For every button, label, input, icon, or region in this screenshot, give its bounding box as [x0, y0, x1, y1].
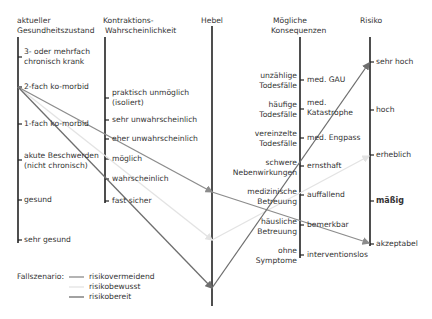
label-line: praktisch unmöglich — [112, 88, 189, 98]
label-risiko-0: sehr hoch — [376, 57, 413, 67]
header-risiko: Risiko — [360, 16, 382, 26]
label-gesundheit-3: akute Beschwerden (nicht chronisch) — [24, 151, 99, 170]
header-line: aktueller — [17, 16, 95, 26]
label-line: medizinische — [247, 187, 297, 197]
label-line: Todesfälle — [259, 110, 297, 120]
label-line: Nebenwirkungen — [233, 168, 297, 178]
label-line: Todesfälle — [259, 81, 297, 91]
legend-label-risikobereit: risikobereit — [89, 292, 131, 302]
label-kontraktion-4: wahrscheinlich — [112, 174, 169, 184]
label-line: Todesfälle — [255, 139, 297, 149]
header-konsequenzen: Mögliche Konsequenzen — [271, 16, 326, 35]
header-line: Mögliche — [271, 16, 326, 26]
label-line: schwere — [233, 158, 297, 168]
label-line: akute Beschwerden — [24, 151, 99, 161]
label-konsequenz-right-5: bemerkbar — [307, 220, 349, 230]
label-konsequenz-left-4: medizinische Betreuung — [247, 187, 297, 206]
label-line: häusliche — [257, 217, 297, 227]
header-hebel: Hebel — [201, 16, 223, 26]
header-kontraktion: Kontraktions- Wahrscheinlichkeit — [103, 16, 176, 35]
label-konsequenz-right-0: med. GAU — [307, 75, 345, 85]
label-konsequenz-right-3: ernsthaft — [307, 161, 341, 171]
label-line: Katastrophe — [307, 108, 353, 118]
label-kontraktion-3: möglich — [112, 154, 142, 164]
label-konsequenz-left-1: häufige Todesfälle — [259, 100, 297, 119]
label-line: 3- oder mehrfach — [24, 47, 90, 57]
header-gesundheit: aktueller Gesundheitszustand — [17, 16, 95, 35]
label-kontraktion-5: fast sicher — [112, 196, 152, 206]
label-line: Symptome — [256, 256, 297, 266]
label-line: (nicht chronisch) — [24, 161, 99, 171]
label-gesundheit-2: 1-fach ko-morbid — [24, 119, 89, 129]
label-kontraktion-0: praktisch unmöglich (isoliert) — [112, 88, 189, 107]
label-kontraktion-2: eher unwahrscheinlich — [112, 134, 198, 144]
label-gesundheit-4: gesund — [24, 195, 52, 205]
label-gesundheit-1: 2-fach ko-morbid — [24, 82, 89, 92]
label-line: unzählige — [259, 71, 297, 81]
header-line: Wahrscheinlichkeit — [103, 26, 176, 36]
legend-title: Fallszenario: — [17, 272, 64, 282]
header-line: Gesundheitszustand — [17, 26, 95, 36]
label-kontraktion-1: sehr unwahrscheinlich — [112, 115, 197, 125]
label-konsequenz-right-2: med. Engpass — [307, 133, 361, 143]
label-gesundheit-0: 3- oder mehrfach chronisch krank — [24, 47, 90, 66]
label-konsequenz-right-1: med. Katastrophe — [307, 98, 353, 117]
label-line: (isoliert) — [112, 98, 189, 108]
label-konsequenz-right-6: interventionslos — [307, 250, 368, 260]
label-line: ohne — [256, 246, 297, 256]
label-line: Betreuung — [257, 227, 297, 237]
label-line: vereinzelte — [255, 129, 297, 139]
label-konsequenz-left-3: schwere Nebenwirkungen — [233, 158, 297, 177]
label-konsequenz-left-5: häusliche Betreuung — [257, 217, 297, 236]
label-line: chronisch krank — [24, 57, 90, 67]
label-risiko-1: hoch — [376, 105, 394, 115]
label-line: med. — [307, 98, 353, 108]
label-konsequenz-left-6: ohne Symptome — [256, 246, 297, 265]
label-konsequenz-left-2: vereinzelte Todesfälle — [255, 129, 297, 148]
label-line: Betreuung — [247, 197, 297, 207]
header-line: Kontraktions- — [103, 16, 176, 26]
label-risiko-3: mäßig — [376, 196, 404, 206]
label-risiko-4: akzeptabel — [376, 239, 418, 249]
label-risiko-2: erheblich — [376, 150, 411, 160]
label-gesundheit-5: sehr gesund — [24, 235, 71, 245]
legend-label-risikobewusst: risikobewusst — [89, 282, 140, 292]
label-line: häufige — [259, 100, 297, 110]
header-line: Konsequenzen — [271, 26, 326, 36]
label-konsequenz-right-4: auffallend — [307, 190, 345, 200]
legend-label-risikovermeidend: risikovermeidend — [89, 272, 155, 282]
label-konsequenz-left-0: unzählige Todesfälle — [259, 71, 297, 90]
